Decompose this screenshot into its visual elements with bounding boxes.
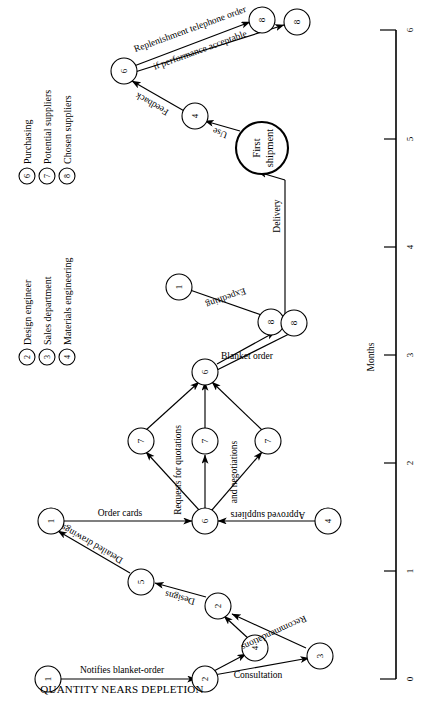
legend-label-sales-department: Sales department (42, 276, 53, 345)
edge-4-to-2b (224, 616, 250, 640)
node-8b-label: 8 (289, 320, 299, 325)
label-quantity-nears-depletion: QUANTITY NEARS DEPLETION (40, 683, 203, 695)
axis-title: Months (366, 342, 376, 371)
edges (48, 22, 315, 679)
node-3a-label: 3 (315, 653, 325, 658)
node-8c-label: 8 (257, 17, 267, 22)
label-feedback: Feedback (134, 90, 171, 117)
legend-label-chosen-suppliers: Chosen suppliers (62, 95, 73, 164)
node-6c-label: 6 (119, 68, 129, 73)
axis-ticklabel-1: 1 (405, 569, 415, 574)
label-use: Use (211, 126, 228, 140)
label-recommendations: Recommendations (240, 614, 309, 653)
edge-labels: Notifies blanket-order QUANTITY NEARS DE… (40, 4, 308, 695)
months-axis: 0 1 2 3 4 5 6 Months (366, 27, 415, 681)
axis-ticklabel-4: 4 (405, 244, 415, 249)
legend-label-materials-engineering: Materials engineering (62, 258, 73, 345)
node-4c-label: 4 (190, 113, 200, 118)
legend: 2 Design engineer 3 Sales department 4 M… (19, 90, 75, 365)
node-first-shipment[interactable] (236, 122, 288, 174)
legend-num-4: 4 (63, 355, 72, 359)
node-6b-label: 6 (200, 369, 210, 374)
label-and-negotiations: and negotiations (229, 440, 239, 503)
axis-ticklabel-0: 0 (405, 676, 415, 681)
label-detailed-drawings: Detailed drawings (59, 522, 124, 566)
legend-label-design-engineer: Design engineer (22, 279, 33, 345)
label-expediting: Expediting (204, 286, 247, 310)
legend-num-6: 6 (23, 174, 32, 178)
node-7c-label: 7 (263, 438, 273, 443)
legend-label-purchasing: Purchasing (22, 120, 33, 164)
label-designs: Designs (164, 589, 196, 607)
node-8d-label: 8 (292, 19, 302, 24)
label-consultation: Consultation (234, 670, 283, 680)
node-4b-label: 4 (323, 518, 333, 523)
node-2b-label: 2 (213, 604, 223, 609)
node-1a-label: 1 (43, 677, 53, 682)
label-notifies: Notifies blanket-order (80, 665, 165, 675)
node-7b-label: 7 (200, 438, 210, 443)
nodes: 1 2 4 3 2 5 1 6 4 7 7 7 6 (35, 7, 341, 692)
edge-7a-6b (146, 382, 199, 430)
legend-label-potential-suppliers: Potential suppliers (42, 90, 53, 164)
axis-ticklabel-5: 5 (405, 136, 415, 141)
label-requests-for-quotations: Requests for quotations (173, 425, 183, 515)
figure-canvas: 1 2 4 3 2 5 1 6 4 7 7 7 6 (0, 0, 422, 709)
legend-num-2: 2 (23, 355, 32, 359)
label-blanket-order: Blanket order (221, 351, 274, 361)
legend-num-7: 7 (43, 174, 52, 178)
node-7a-label: 7 (136, 438, 146, 443)
node-1b-label: 1 (46, 519, 56, 524)
label-approved-suppliers: Approved suppliers (230, 510, 305, 520)
network-diagram: 1 2 4 3 2 5 1 6 4 7 7 7 6 (0, 0, 422, 709)
axis-ticklabel-6: 6 (405, 27, 415, 32)
label-delivery: Delivery (272, 199, 282, 232)
legend-num-3: 3 (43, 355, 52, 359)
first-shipment-line2: shipment (264, 129, 275, 168)
axis-ticklabel-2: 2 (405, 461, 415, 466)
node-5a-label: 5 (136, 579, 146, 584)
node-6a-label: 6 (200, 518, 210, 523)
axis-ticklabel-3: 3 (405, 352, 415, 357)
edge-7c-6b (212, 382, 262, 430)
legend-num-8: 8 (63, 174, 72, 178)
label-order-cards: Order cards (98, 508, 143, 518)
first-shipment-line1: First (251, 138, 262, 157)
node-8a-label: 8 (266, 319, 276, 324)
node-2a-label: 2 (200, 677, 210, 682)
node-1c-label: 1 (174, 285, 184, 290)
